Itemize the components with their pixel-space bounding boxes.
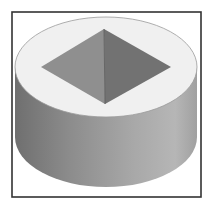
cylinder-diagram xyxy=(0,0,211,206)
